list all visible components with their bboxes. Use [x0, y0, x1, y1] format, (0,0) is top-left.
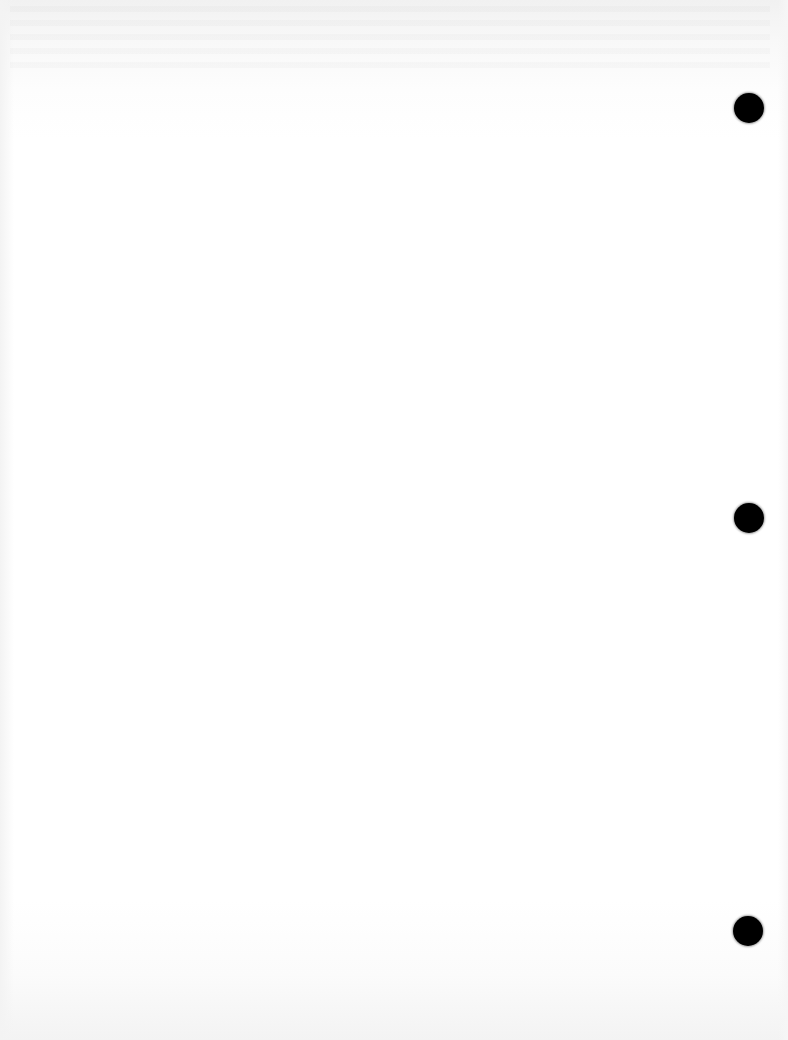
page-edge-shadow-left: [0, 0, 14, 1040]
punch-hole-icon: [733, 916, 763, 946]
scanned-page: [0, 0, 788, 1040]
bleed-through-artifact: [10, 6, 770, 76]
punch-hole-icon: [734, 503, 764, 533]
page-edge-shadow-right: [778, 0, 788, 1040]
punch-hole-icon: [734, 93, 764, 123]
